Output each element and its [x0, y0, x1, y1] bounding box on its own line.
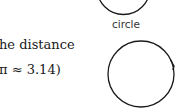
circle-label: circle	[112, 18, 140, 30]
circle-diagrams	[0, 0, 175, 109]
top-circle-icon	[97, 0, 150, 15]
bottom-circle-icon	[108, 41, 174, 107]
